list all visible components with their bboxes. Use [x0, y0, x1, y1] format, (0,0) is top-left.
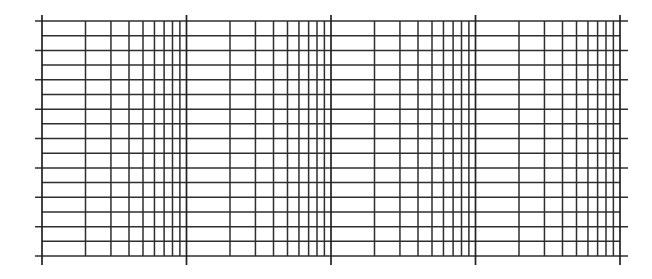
- grid-canvas: [0, 0, 652, 279]
- vertical-log-grid-lines: [42, 15, 620, 265]
- semi-log-graph-paper: [0, 0, 652, 279]
